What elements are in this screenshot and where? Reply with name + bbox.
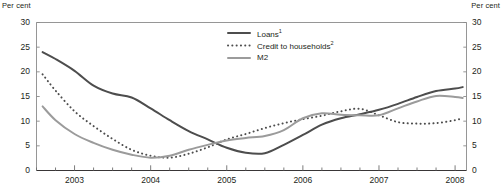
plot-area: [0, 0, 502, 190]
series-line-credit-to-households: [43, 74, 463, 157]
y-axis-label-right: 5: [472, 140, 498, 150]
legend-label-loans: Loans1: [257, 28, 282, 39]
y-axis-label-right: 20: [472, 66, 498, 76]
y-axis-label-left: 5: [4, 140, 30, 150]
y-axis-label-right: 15: [472, 91, 498, 101]
x-axis-label: 2003: [55, 175, 95, 185]
series-line-loans: [43, 52, 463, 154]
y-axis-label-left: 15: [4, 91, 30, 101]
legend-label-credit-to-households: Credit to households2: [257, 40, 333, 51]
y-axis-label-left: 25: [4, 42, 30, 52]
x-axis-label: 2004: [131, 175, 171, 185]
y-axis-label-right: 25: [472, 42, 498, 52]
y-axis-label-right: 30: [472, 17, 498, 27]
plot-frame: [37, 23, 467, 171]
x-axis-label: 2005: [207, 175, 247, 185]
y-axis-label-right: 10: [472, 116, 498, 126]
x-axis-label: 2007: [359, 175, 399, 185]
y-axis-label-left: 0: [4, 165, 30, 175]
y-axis-label-left: 30: [4, 17, 30, 27]
y-axis-label-left: 20: [4, 66, 30, 76]
series-line-m2: [43, 96, 463, 158]
legend-label-m2: M2: [257, 53, 268, 62]
chart-container: Per cent Per cent 3030252520201515101055…: [0, 0, 502, 190]
x-axis-label: 2008: [435, 175, 475, 185]
y-axis-label-right: 0: [472, 165, 498, 175]
x-axis-label: 2006: [283, 175, 323, 185]
y-axis-label-left: 10: [4, 116, 30, 126]
